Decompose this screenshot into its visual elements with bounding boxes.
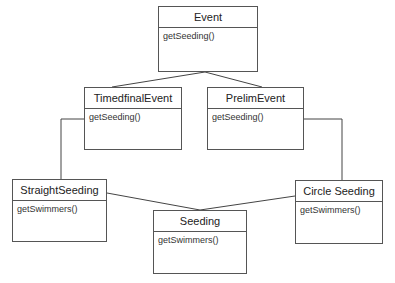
class-event[interactable]: Event getSeeding() (158, 6, 258, 72)
link-straight-seeding (107, 193, 200, 210)
class-straight-seeding[interactable]: StraightSeeding getSwimmers() (12, 179, 107, 242)
link-prelim-circle (304, 119, 342, 180)
class-timedfinal-event[interactable]: TimedfinalEvent getSeeding() (84, 87, 182, 150)
class-operation: getSeeding() (85, 109, 181, 125)
link-timedfinal-event (112, 72, 205, 87)
class-operation: getSeeding() (208, 109, 303, 125)
class-circle-seeding[interactable]: Circle Seeding getSwimmers() (295, 180, 383, 244)
class-operation: getSeeding() (159, 28, 257, 44)
class-operation: getSwimmers() (296, 202, 382, 218)
class-seeding[interactable]: Seeding getSwimmers() (153, 210, 247, 274)
class-prelim-event[interactable]: PrelimEvent getSeeding() (207, 87, 304, 150)
class-name: Circle Seeding (296, 181, 382, 202)
link-timedfinal-straight (61, 119, 84, 180)
class-name: TimedfinalEvent (85, 88, 181, 109)
class-operation: getSwimmers() (154, 232, 246, 248)
class-name: Seeding (154, 211, 246, 232)
class-name: Event (159, 7, 257, 28)
link-circle-seeding (200, 196, 295, 210)
class-name: PrelimEvent (208, 88, 303, 109)
class-name: StraightSeeding (13, 180, 106, 201)
link-prelim-event (205, 72, 262, 87)
class-operation: getSwimmers() (13, 201, 106, 217)
